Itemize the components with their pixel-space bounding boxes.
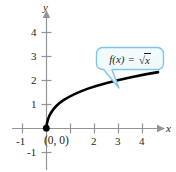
y-axis-label: y [43,2,48,13]
origin-point-marker [43,125,50,132]
y-tick-label-4: 4 [31,27,37,38]
origin-point-label: (0, 0) [44,135,69,147]
x-axis-label: x [166,123,171,134]
x-axis-arrowhead [157,125,165,132]
x-tick-label-neg1: -1 [16,136,25,147]
y-tick-label-1: 1 [31,99,37,110]
y-tick-label-3: 3 [31,51,37,62]
radicand: x [144,53,151,66]
callout-tail [104,70,119,88]
x-tick-label-2: 2 [91,136,97,147]
equation-equals: = [127,53,134,65]
function-graph-figure: 4 3 2 1 -1 -1 2 3 4 (0, 0) x y f(x)=√x [0,0,176,172]
x-tick-label-3: 3 [115,136,121,147]
radical-group: √x [138,53,151,66]
equation-lhs: f(x) [109,53,124,65]
function-equation-label: f(x)=√x [99,50,161,68]
y-tick-label-2: 2 [31,75,37,86]
y-tick-label-neg1: -1 [27,147,36,158]
x-tick-label-4: 4 [139,136,145,147]
sqrt-curve [46,72,158,128]
